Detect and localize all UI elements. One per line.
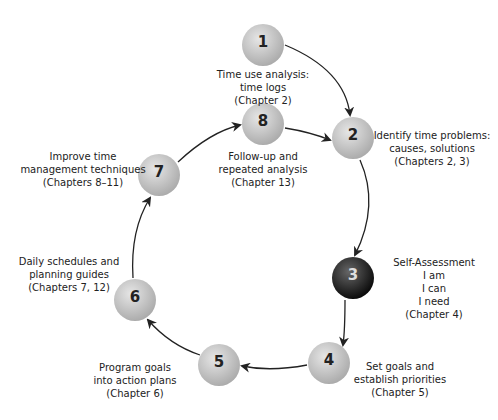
node-1-caption: Time use analysis: time logs (Chapter 2) <box>217 68 309 107</box>
node-5-number: 5 <box>214 356 224 369</box>
node-7-caption: Improve time management techniques (Chap… <box>20 150 145 189</box>
node-4-caption: Set goals and establish priorities (Chap… <box>354 360 446 399</box>
arrow-5-to-6 <box>148 320 200 355</box>
arrow-8-to-2 <box>285 128 330 140</box>
node-4-number: 4 <box>324 354 334 367</box>
node-3-number: 3 <box>348 269 358 282</box>
arrow-4-to-5 <box>242 365 307 369</box>
node-6-caption: Daily schedules and planning guides (Cha… <box>19 255 120 294</box>
cycle-diagram <box>0 0 498 420</box>
arrow-2-to-3 <box>355 160 369 255</box>
node-1-number: 1 <box>258 36 268 49</box>
arrow-6-to-7 <box>133 198 150 278</box>
node-8-caption: Follow-up and repeated analysis (Chapter… <box>219 150 308 189</box>
arrow-3-to-4 <box>343 300 345 345</box>
node-2-number: 2 <box>348 129 358 142</box>
node-6-number: 6 <box>130 291 140 304</box>
node-5-caption: Program goals into action plans (Chapter… <box>93 361 176 400</box>
node-2-caption: Identify time problems: causes, solution… <box>374 129 491 168</box>
node-7-number: 7 <box>154 166 164 179</box>
node-3-caption: Self-Assessment I am I can I need (Chapt… <box>393 256 475 321</box>
node-8-number: 8 <box>258 115 268 128</box>
